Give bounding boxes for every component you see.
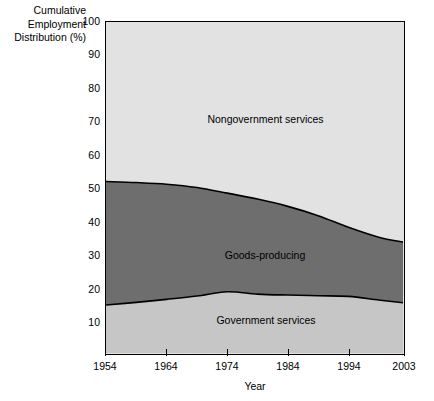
y-tick-label-20: 20	[72, 283, 100, 295]
x-tick-label-1974: 1974	[205, 360, 249, 372]
y-tick-label-80: 80	[72, 82, 100, 94]
x-tick-mark-1994	[349, 349, 350, 356]
x-tick-mark-2003	[404, 349, 405, 356]
y-tick-label-100: 100	[72, 15, 100, 27]
x-tick-mark-1964	[166, 349, 167, 356]
x-tick-label-1984: 1984	[266, 360, 310, 372]
x-tick-label-1954: 1954	[83, 360, 127, 372]
x-tick-mark-1984	[288, 349, 289, 356]
x-tick-mark-1954	[105, 349, 106, 356]
x-tick-label-1964: 1964	[144, 360, 188, 372]
series-label-government-services: Government services	[198, 314, 334, 326]
x-tick-mark-1974	[227, 349, 228, 356]
y-tick-label-40: 40	[72, 216, 100, 228]
x-tick-label-2003: 2003	[382, 360, 426, 372]
y-axis-title-line-3: Distribution (%)	[0, 31, 86, 45]
y-tick-label-10: 10	[72, 316, 100, 328]
x-axis-title: Year	[105, 380, 405, 392]
y-tick-label-30: 30	[72, 249, 100, 261]
series-label-nongovernment-services: Nongovernment services	[193, 113, 338, 125]
y-tick-label-50: 50	[72, 182, 100, 194]
y-tick-label-60: 60	[72, 149, 100, 161]
plot-area	[105, 21, 405, 355]
y-tick-label-70: 70	[72, 115, 100, 127]
y-tick-label-90: 90	[72, 48, 100, 60]
chart-page: Cumulative Employment Distribution (%) 1…	[0, 0, 434, 401]
series-label-goods-producing: Goods-producing	[201, 249, 329, 261]
x-tick-label-1994: 1994	[327, 360, 371, 372]
stacked-area-svg	[106, 22, 403, 353]
